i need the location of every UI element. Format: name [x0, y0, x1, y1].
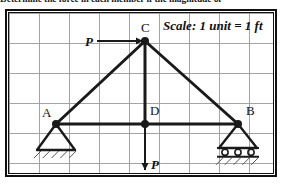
problem-statement-text: Determine the force in each member if th…: [0, 0, 290, 6]
grid-canvas: [9, 13, 273, 173]
force-label-vertical: P: [151, 158, 159, 171]
force-label-horizontal: P: [85, 35, 93, 48]
scale-note: Scale: 1 unit = 1 ft: [163, 18, 263, 34]
figure-root: Determine the force in each member if th…: [0, 0, 290, 187]
node-label-d: D: [150, 104, 159, 117]
node-label-c: C: [141, 21, 150, 34]
supports: [34, 124, 259, 165]
node-label-a: A: [42, 106, 51, 119]
node-label-b: B: [246, 104, 255, 117]
truss-nodes: [52, 37, 242, 128]
truss-members: [56, 41, 238, 124]
